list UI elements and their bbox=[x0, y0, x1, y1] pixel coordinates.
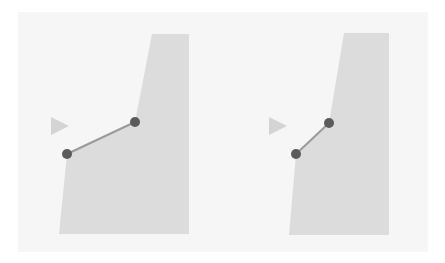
diagram-canvas bbox=[0, 0, 445, 263]
vertex-point-upper[interactable] bbox=[324, 118, 334, 128]
diagram-stage bbox=[0, 0, 445, 263]
vertex-point-upper[interactable] bbox=[130, 117, 140, 127]
vertex-point-lower[interactable] bbox=[291, 149, 301, 159]
vertex-point-lower[interactable] bbox=[62, 149, 72, 159]
